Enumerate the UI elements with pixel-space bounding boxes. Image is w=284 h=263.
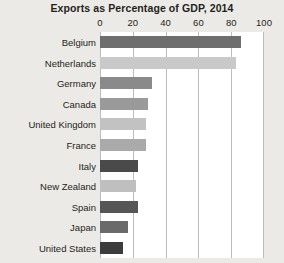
x-axis-tick-labels: 020406080100	[100, 17, 264, 31]
bar-italy	[100, 160, 138, 172]
category-label-germany: Germany	[0, 78, 96, 89]
bar-chart: Exports as Percentage of GDP, 2014 02040…	[0, 0, 284, 263]
category-label-new-zealand: New Zealand	[0, 181, 96, 192]
bar-france	[100, 139, 146, 151]
bar-germany	[100, 77, 152, 89]
bar-belgium	[100, 36, 241, 48]
bar-row	[100, 57, 264, 69]
bar-row	[100, 180, 264, 192]
category-axis-labels: BelgiumNetherlandsGermanyCanadaUnited Ki…	[0, 32, 96, 258]
bar-canada	[100, 98, 148, 110]
category-label-canada: Canada	[0, 99, 96, 110]
bar-row	[100, 118, 264, 130]
category-label-spain: Spain	[0, 202, 96, 213]
category-label-netherlands: Netherlands	[0, 58, 96, 69]
bar-row	[100, 160, 264, 172]
bar-united-kingdom	[100, 118, 146, 130]
bar-netherlands	[100, 57, 236, 69]
category-label-italy: Italy	[0, 161, 96, 172]
plot-area	[100, 32, 264, 258]
bar-japan	[100, 221, 128, 233]
bar-row	[100, 242, 264, 254]
category-label-belgium: Belgium	[0, 37, 96, 48]
x-tick-label-80: 80	[226, 17, 237, 28]
x-tick-label-0: 0	[97, 17, 102, 28]
x-tick-label-20: 20	[128, 17, 139, 28]
category-label-united-states: United States	[0, 243, 96, 254]
bar-united-states	[100, 242, 123, 254]
x-tick-label-100: 100	[256, 17, 272, 28]
bar-spain	[100, 201, 138, 213]
bar-row	[100, 221, 264, 233]
bars-layer	[100, 32, 264, 258]
bar-row	[100, 98, 264, 110]
chart-title: Exports as Percentage of GDP, 2014	[0, 2, 284, 14]
x-tick-label-40: 40	[160, 17, 171, 28]
bar-row	[100, 77, 264, 89]
x-tick-label-60: 60	[193, 17, 204, 28]
category-label-japan: Japan	[0, 222, 96, 233]
bar-row	[100, 36, 264, 48]
category-label-united-kingdom: United Kingdom	[0, 119, 96, 130]
category-label-france: France	[0, 140, 96, 151]
bar-new-zealand	[100, 180, 136, 192]
bar-row	[100, 201, 264, 213]
bar-row	[100, 139, 264, 151]
